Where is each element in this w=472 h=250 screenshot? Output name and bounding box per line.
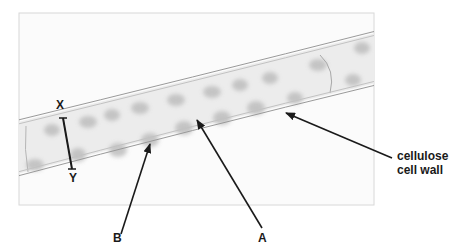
label-b: B xyxy=(113,232,122,245)
label-y: Y xyxy=(69,172,77,185)
label-cellulose: cellulose xyxy=(397,150,448,163)
diagram: X Y B A cellulose cell wall xyxy=(0,0,472,250)
label-a: A xyxy=(258,232,267,245)
label-cell-wall: cell wall xyxy=(397,164,443,177)
micrograph-svg xyxy=(0,0,472,250)
label-x: X xyxy=(56,99,64,112)
